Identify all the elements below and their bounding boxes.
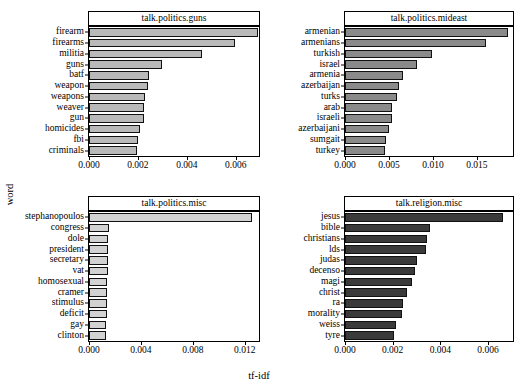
bar-row[interactable]: jesus [345,213,513,222]
bar[interactable] [89,235,108,244]
bar-row[interactable]: bible [345,224,513,233]
bar-row[interactable]: guns [89,60,259,69]
bar[interactable] [89,321,106,330]
bar-row[interactable]: tyre [345,331,513,340]
bar-row[interactable]: christ [345,288,513,297]
bar-row[interactable]: militia [89,50,259,59]
bar-row[interactable]: azerbaijan [345,82,513,91]
bar[interactable] [89,278,107,287]
bar-row[interactable]: armenian [345,28,513,37]
bar[interactable] [89,136,138,145]
bar[interactable] [89,256,108,265]
bar-row[interactable]: gay [89,321,259,330]
bar[interactable] [345,299,403,308]
bar[interactable] [345,39,486,48]
bar-row[interactable]: sumgait [345,136,513,145]
bar-row[interactable]: weiss [345,321,513,330]
bar-row[interactable]: turkey [345,146,513,155]
panel-title: talk.politics.misc [142,199,207,209]
bar[interactable] [345,235,427,244]
bar-row[interactable]: criminals [89,146,259,155]
bar[interactable] [89,39,235,48]
bar[interactable] [345,50,432,59]
bar-row[interactable]: arab [345,103,513,112]
bar[interactable] [89,60,162,69]
bar-row[interactable]: deficit [89,310,259,319]
bar[interactable] [89,224,109,233]
bar-row[interactable]: weaver [89,103,259,112]
bar-row[interactable]: cramer [89,288,259,297]
bar-row[interactable]: stimulus [89,299,259,308]
bar-row[interactable]: firearm [89,28,259,37]
bar-row[interactable]: christians [345,235,513,244]
bar-row[interactable]: decenso [345,267,513,276]
bar-row[interactable]: batf [89,71,259,80]
bar[interactable] [345,82,399,91]
bar[interactable] [345,71,403,80]
bar[interactable] [345,310,402,319]
bar[interactable] [89,267,108,276]
bar[interactable] [345,146,385,155]
bar[interactable] [345,28,508,37]
bar[interactable] [89,28,258,37]
bar[interactable] [345,288,407,297]
bar[interactable] [89,82,148,91]
bar-row[interactable]: weapon [89,82,259,91]
bar[interactable] [89,93,145,102]
bar[interactable] [345,256,417,265]
bar[interactable] [89,288,107,297]
bar-row[interactable]: firearms [89,39,259,48]
bar-row[interactable]: gun [89,114,259,123]
bar-row[interactable]: ra [345,299,513,308]
bar[interactable] [89,299,107,308]
bar[interactable] [89,213,252,222]
bar[interactable] [89,114,144,123]
bar-row[interactable]: weapons [89,93,259,102]
bar-row[interactable]: azerbaijani [345,125,513,134]
bar[interactable] [345,60,417,69]
bar-row[interactable]: israel [345,60,513,69]
bar-row[interactable]: turks [345,93,513,102]
bar[interactable] [345,267,415,276]
bar[interactable] [345,331,394,340]
bar-row[interactable]: morality [345,310,513,319]
bar-row[interactable]: vat [89,267,259,276]
y-tick-label: cramer [58,288,84,298]
bar[interactable] [345,136,386,145]
panel-talk-politics-mideast: talk.politics.mideastarmenianarmenianstu… [344,11,514,157]
y-tick-mark [85,281,89,282]
bar-row[interactable]: homicides [89,125,259,134]
bar-row[interactable]: armenians [345,39,513,48]
bar[interactable] [345,103,392,112]
bar[interactable] [89,331,106,340]
bar-row[interactable]: dole [89,235,259,244]
bar-row[interactable]: lds [345,245,513,254]
bar[interactable] [345,213,503,222]
bar[interactable] [89,103,144,112]
bar-row[interactable]: clinton [89,331,259,340]
bar[interactable] [345,321,396,330]
bar[interactable] [345,278,412,287]
bar-row[interactable]: armenia [345,71,513,80]
bar[interactable] [345,125,389,134]
bar-row[interactable]: israeli [345,114,513,123]
bar[interactable] [89,245,108,254]
bar-row[interactable]: fbi [89,136,259,145]
bar[interactable] [89,310,107,319]
bar[interactable] [345,224,430,233]
bar[interactable] [345,114,392,123]
bar-row[interactable]: turkish [345,50,513,59]
bar[interactable] [89,146,137,155]
bar-row[interactable]: homosexual [89,278,259,287]
bar-row[interactable]: stephanopoulos [89,213,259,222]
bar-row[interactable]: judas [345,256,513,265]
bar[interactable] [345,93,397,102]
bar[interactable] [89,50,202,59]
bar[interactable] [89,71,149,80]
bar-row[interactable]: secretary [89,256,259,265]
bar-row[interactable]: congress [89,224,259,233]
bar[interactable] [345,245,426,254]
bar[interactable] [89,125,140,134]
bar-row[interactable]: magi [345,278,513,287]
bar-row[interactable]: president [89,245,259,254]
